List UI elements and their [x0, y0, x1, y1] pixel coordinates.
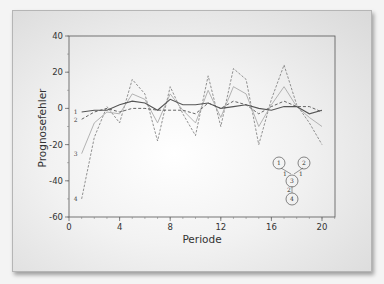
series-label-4: 4	[74, 195, 78, 202]
series-4-line	[82, 65, 322, 199]
line-chart: 40200-20-40-60 048121620 Periode Prognos…	[0, 0, 384, 284]
edge-label-2-3: 1	[299, 170, 303, 177]
node-label-2: 2	[302, 159, 306, 166]
node-label-3: 3	[290, 177, 294, 184]
plot-area	[69, 36, 335, 217]
x-tick-label: 4	[117, 222, 122, 232]
y-tick-label: -40	[49, 176, 63, 186]
x-tick-label: 8	[167, 222, 172, 232]
y-axis-title: Prognosefehler	[36, 88, 48, 168]
x-tick-label: 12	[215, 222, 226, 232]
series-label-3: 3	[74, 150, 78, 157]
x-tick-label: 16	[266, 222, 277, 232]
x-axis-title: Periode	[182, 233, 221, 245]
node-label-4: 4	[290, 195, 294, 202]
series-label-2: 2	[74, 116, 78, 123]
series-label-1: 1	[74, 108, 78, 115]
y-tick-label: -20	[49, 140, 63, 150]
series-labels: 1234	[74, 108, 78, 202]
edge-label-3-4: 2	[287, 186, 291, 193]
x-axis: 048121620	[66, 217, 334, 232]
y-tick-label: -60	[49, 212, 63, 222]
y-tick-label: 40	[52, 31, 63, 41]
edge-label-1-3: 1	[283, 170, 287, 177]
node-label-1: 1	[277, 159, 281, 166]
x-tick-label: 20	[317, 222, 328, 232]
y-tick-label: 20	[52, 67, 63, 77]
x-tick-label: 0	[66, 222, 71, 232]
y-tick-label: 0	[58, 103, 63, 113]
series-lines	[82, 65, 322, 199]
y-axis: 40200-20-40-60	[49, 31, 69, 222]
network-diagram: 1 2 3 4 1 1 2	[273, 157, 310, 205]
